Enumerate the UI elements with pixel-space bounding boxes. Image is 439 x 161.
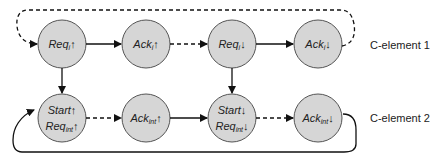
label-start-fall: Start↓ bbox=[207, 103, 257, 117]
label-req-i-fall: Reqi↓ bbox=[207, 37, 257, 55]
label-ack-int-fall: Ackint↓ bbox=[293, 111, 343, 129]
label-ack-i-rise: Acki↑ bbox=[121, 37, 171, 55]
label-ack-int-rise: Ackint↑ bbox=[121, 111, 171, 129]
label-ack-i-fall: Acki↓ bbox=[293, 37, 343, 55]
label-req-i-rise: Reqi↑ bbox=[37, 37, 87, 55]
label-req-int-rise: Reqint↑ bbox=[37, 119, 87, 137]
label-start-rise: Start↑ bbox=[37, 103, 87, 117]
label-req-int-fall: Reqint↓ bbox=[207, 119, 257, 137]
row-label-c-element-2: C-element 2 bbox=[370, 112, 430, 124]
row-label-c-element-1: C-element 1 bbox=[370, 39, 430, 51]
